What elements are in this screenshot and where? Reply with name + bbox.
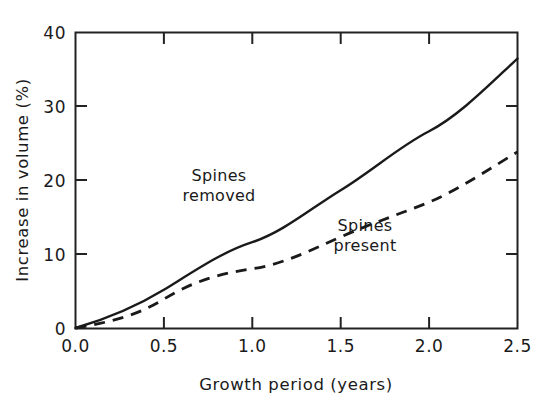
chart-svg: 40 30 20 10 0 0.0 0.5 1.0 1.5 2.0 2.5 Gr… bbox=[0, 0, 544, 405]
annotation-spines-removed-line2: removed bbox=[182, 186, 255, 205]
annotation-spines-removed: Spines removed bbox=[182, 166, 255, 205]
x-tick-label-2-0: 2.0 bbox=[415, 336, 444, 356]
x-tick-label-1-5: 1.5 bbox=[326, 336, 355, 356]
x-tick-label-2-5: 2.5 bbox=[503, 336, 532, 356]
x-tick-label-0-0: 0.0 bbox=[61, 336, 90, 356]
x-tick-label-1-0: 1.0 bbox=[238, 336, 267, 356]
annotation-spines-present-line1: Spines bbox=[338, 216, 393, 235]
annotation-spines-removed-line1: Spines bbox=[192, 166, 247, 185]
annotation-spines-present-line2: present bbox=[334, 236, 397, 255]
annotation-spines-present: Spines present bbox=[334, 216, 397, 255]
y-tick-label-30: 30 bbox=[43, 97, 66, 117]
chart-figure: 40 30 20 10 0 0.0 0.5 1.0 1.5 2.0 2.5 Gr… bbox=[0, 0, 544, 405]
y-tick-label-10: 10 bbox=[43, 245, 66, 265]
y-tick-label-40: 40 bbox=[43, 23, 66, 43]
y-axis-title: Increase in volume (%) bbox=[13, 78, 32, 281]
x-tick-label-0-5: 0.5 bbox=[150, 336, 179, 356]
x-axis-title: Growth period (years) bbox=[199, 375, 393, 394]
y-tick-label-20: 20 bbox=[43, 171, 66, 191]
